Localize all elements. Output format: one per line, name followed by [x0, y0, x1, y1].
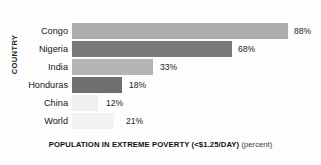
bar-track: 18% — [72, 76, 321, 94]
value-label: 68% — [238, 44, 255, 54]
bar-row: Nigeria 68% — [0, 40, 321, 58]
bar-congo — [72, 23, 288, 39]
bar-honduras — [72, 77, 122, 93]
bar-track: 21% — [72, 112, 321, 130]
value-label: 33% — [160, 62, 177, 72]
plot-area: Congo 88% Nigeria 68% India 33% Honduras — [0, 22, 321, 136]
category-label: India — [14, 62, 68, 72]
category-label: Honduras — [14, 80, 68, 90]
x-axis-title: POPULATION IN EXTREME POVERTY (<$1.25/DA… — [0, 140, 321, 149]
x-axis-title-main: POPULATION IN EXTREME POVERTY (<$1.25/DA… — [49, 140, 240, 149]
bar-nigeria — [72, 41, 232, 57]
bar-world — [72, 113, 114, 129]
bar-row: Congo 88% — [0, 22, 321, 40]
category-label: Congo — [14, 26, 68, 36]
bar-chart: COUNTRY Congo 88% Nigeria 68% India 33% — [0, 0, 321, 165]
bar-row: Honduras 18% — [0, 76, 321, 94]
bar-track: 68% — [72, 40, 321, 58]
value-label: 12% — [106, 98, 123, 108]
bar-row: India 33% — [0, 58, 321, 76]
bar-track: 12% — [72, 94, 321, 112]
value-label: 21% — [126, 116, 143, 126]
bar-track: 88% — [72, 22, 321, 40]
category-label: China — [14, 98, 68, 108]
category-label: World — [14, 116, 68, 126]
bar-row: China 12% — [0, 94, 321, 112]
bar-track: 33% — [72, 58, 321, 76]
bar-row: World 21% — [0, 112, 321, 130]
x-axis-title-unit: (percent) — [242, 140, 273, 149]
category-label: Nigeria — [14, 44, 68, 54]
bar-india — [72, 59, 153, 75]
value-label: 88% — [294, 26, 311, 36]
value-label: 18% — [129, 80, 146, 90]
bar-china — [72, 95, 98, 111]
